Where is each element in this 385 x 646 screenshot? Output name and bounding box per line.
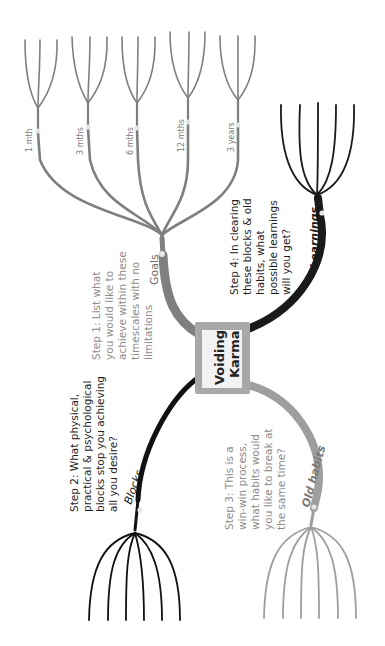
old-habits-label: Old habits [299,444,328,509]
central-topic[interactable]: Voiding Karma [195,322,250,394]
goal-3years-label: 3 years [227,122,236,152]
learnings-label: Learnings [308,206,321,268]
svg-text:timescales with no: timescales with no [129,262,141,360]
goal-12mths-label: 12 mths [177,119,186,152]
svg-text:Step 2: What physical,: Step 2: What physical, [68,394,80,512]
svg-text:habits, what: habits, what [254,230,266,295]
svg-text:these blocks & old: these blocks & old [241,198,253,295]
svg-text:you like to break at: you like to break at [262,429,274,530]
mind-map-canvas: Goals 1 mth 3 mths 6 mths 12 mths 3 year… [0,0,385,646]
central-title-line2: Karma [227,330,242,378]
svg-text:achieve within these: achieve within these [116,251,128,360]
goal-1mth-label: 1 mth [25,128,34,152]
svg-text:blocks stop you achieving: blocks stop you achieving [94,376,106,512]
svg-text:limitations: limitations [142,305,154,360]
goal-3mths-label: 3 mths [76,127,85,155]
svg-text:win-win process,: win-win process, [236,443,248,530]
step2-note: Step 2: What physical, practical & psych… [68,376,119,512]
svg-text:you would like to: you would like to [103,271,115,360]
svg-text:the same time?: the same time? [275,448,287,530]
step3-note: Step 3: This is a win-win process, what … [223,429,287,530]
svg-text:all you desire?: all you desire? [107,436,119,512]
svg-text:Step 3: This is a: Step 3: This is a [223,446,235,530]
svg-text:Step 1: List what: Step 1: List what [90,272,102,360]
central-title-line1: Voiding [212,330,227,385]
svg-text:practical & psychological: practical & psychological [81,381,93,512]
step1-note: Step 1: List what you would like to achi… [90,251,154,360]
svg-text:Step 4: In clearing: Step 4: In clearing [228,199,240,295]
svg-text:what habits would: what habits would [249,434,261,530]
step4-note: Step 4: In clearing these blocks & old h… [228,198,292,295]
svg-text:will you get?: will you get? [280,229,292,295]
svg-text:possible learnings: possible learnings [267,200,279,295]
goal-6mths-label: 6 mths [126,127,135,155]
blocks-label: Blocks [122,468,146,506]
goals-label: Goals [148,254,161,285]
